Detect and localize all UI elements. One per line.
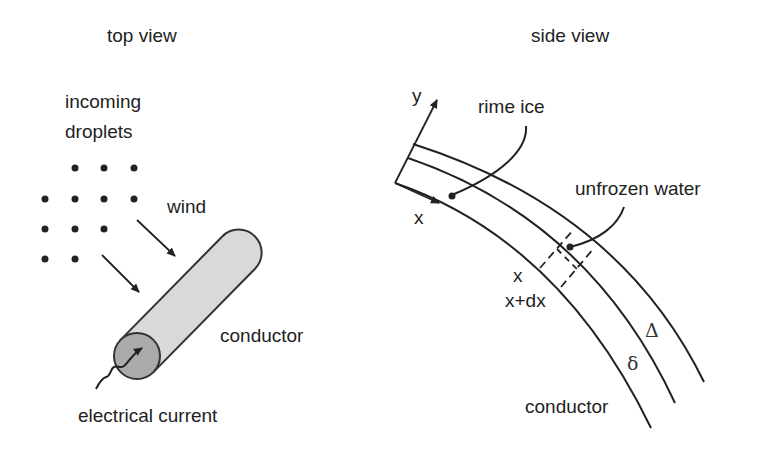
droplet: [101, 196, 108, 203]
droplet: [42, 196, 49, 203]
side-view-panel: side view y x rime ice unfrozen water x …: [395, 25, 704, 428]
droplet: [42, 256, 49, 263]
droplet: [72, 165, 79, 172]
droplet: [42, 226, 49, 233]
rime-ice-dot: [449, 193, 456, 200]
droplet: [72, 226, 79, 233]
droplet: [131, 165, 138, 172]
rime-ice-leader-line: [452, 126, 526, 195]
rime-ice-label: rime ice: [478, 96, 545, 117]
top-view-title: top view: [107, 25, 177, 46]
droplet: [101, 226, 108, 233]
current-label: electrical current: [78, 405, 218, 426]
delta-upper-label: Δ: [645, 319, 659, 341]
droplet-grid: [42, 165, 138, 263]
droplet: [72, 256, 79, 263]
wind-arrow-icon: [102, 255, 139, 292]
wind-label: wind: [166, 196, 206, 217]
conductor-label-top: conductor: [220, 325, 304, 346]
conductor-cylinder: [104, 220, 271, 388]
droplet: [131, 196, 138, 203]
top-view-panel: top view incoming droplets wind: [42, 25, 305, 426]
droplets-label-line2: droplets: [65, 121, 133, 142]
axis-x-label: x: [414, 207, 424, 228]
droplets-label-line1: incoming: [65, 91, 141, 112]
unfrozen-water-label: unfrozen water: [575, 178, 701, 199]
axis-y-label: y: [412, 85, 422, 106]
side-view-title: side view: [531, 25, 609, 46]
x-position-label: x: [513, 265, 523, 286]
icing-diagram: top view incoming droplets wind: [0, 0, 765, 452]
y-axis-arrow-icon: [395, 100, 437, 183]
delta-lower-label: δ: [627, 352, 638, 374]
unfrozen-water-dot: [567, 244, 574, 251]
x-dx-position-label: x+dx: [505, 290, 546, 311]
wind-arrow-icon: [137, 220, 175, 256]
conductor-label-side: conductor: [525, 396, 609, 417]
droplet: [101, 165, 108, 172]
droplet: [72, 196, 79, 203]
control-volume-xdx-line: [561, 248, 594, 287]
